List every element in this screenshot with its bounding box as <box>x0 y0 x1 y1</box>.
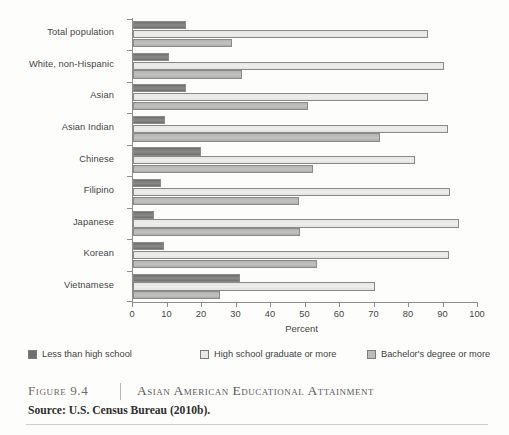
bar <box>133 53 169 61</box>
y-axis-category-label: Asian Indian <box>62 122 114 132</box>
x-axis-tick-label: 0 <box>129 309 134 319</box>
bar-group <box>133 179 477 207</box>
legend-swatch-icon <box>367 350 376 359</box>
y-axis-category-label: Filipino <box>84 185 114 195</box>
x-axis-tick-label: 100 <box>469 309 485 319</box>
y-axis-category-label: Japanese <box>73 217 114 227</box>
legend-label: Bachelor's degree or more <box>381 349 490 359</box>
x-axis-tick-label: 60 <box>334 309 344 319</box>
y-axis-category-label: Chinese <box>79 154 114 164</box>
bar <box>133 133 380 141</box>
figure-caption: Figure 9.4 Asian American Educational At… <box>28 380 488 402</box>
bar-group <box>133 147 477 175</box>
x-axis-tick <box>374 302 375 307</box>
bar <box>133 251 449 259</box>
y-axis-category-labels: Total populationWhite, non-HispanicAsian… <box>0 18 120 302</box>
y-axis-tick <box>127 176 132 177</box>
x-axis-tick-label: 90 <box>437 309 447 319</box>
x-axis-tick-label: 50 <box>299 309 309 319</box>
y-axis-tick <box>127 145 132 146</box>
y-axis-category-label: Korean <box>83 248 114 258</box>
bar <box>133 147 201 155</box>
bar <box>133 219 459 227</box>
bar-group <box>133 274 477 302</box>
y-axis-category-label: Vietnamese <box>64 280 114 290</box>
legend-swatch-icon <box>200 350 209 359</box>
y-axis-tick <box>127 208 132 209</box>
x-axis-tick <box>270 302 271 307</box>
chart-legend: Less than high schoolHigh school graduat… <box>0 349 509 369</box>
bar <box>133 125 448 133</box>
bar <box>133 84 186 92</box>
legend-item[interactable]: Bachelor's degree or more <box>367 349 490 359</box>
legend-swatch-icon <box>28 350 37 359</box>
x-axis-tick-label: 10 <box>161 309 171 319</box>
bar <box>133 242 164 250</box>
bar-group <box>133 211 477 239</box>
bar <box>133 102 308 110</box>
bar <box>133 39 232 47</box>
bar <box>133 30 428 38</box>
x-axis-tick <box>236 302 237 307</box>
figure-title: Asian American Educational Attainment <box>137 383 374 399</box>
figure-number: Figure 9.4 <box>28 383 120 399</box>
y-axis-tick <box>127 19 132 20</box>
y-axis-tick <box>127 50 132 51</box>
y-axis-category-label: White, non-Hispanic <box>29 59 114 69</box>
y-axis-tick <box>127 82 132 83</box>
x-axis-tick-label: 80 <box>403 309 413 319</box>
figure-container: Total populationWhite, non-HispanicAsian… <box>0 0 509 435</box>
x-axis-tick <box>305 302 306 307</box>
bar <box>133 282 375 290</box>
bars-region <box>132 18 477 302</box>
y-axis-tick <box>127 271 132 272</box>
chart-plot-area: Total populationWhite, non-HispanicAsian… <box>0 0 509 345</box>
bar-group <box>133 242 477 270</box>
bar <box>133 165 313 173</box>
bar <box>133 93 428 101</box>
bar-group <box>133 21 477 49</box>
y-axis-tick <box>127 239 132 240</box>
bar-group <box>133 84 477 112</box>
legend-item[interactable]: High school graduate or more <box>200 349 336 359</box>
x-axis-tick <box>132 302 133 307</box>
bar <box>133 197 299 205</box>
caption-divider <box>120 383 121 400</box>
x-axis-tick <box>339 302 340 307</box>
source-text: U.S. Census Bureau (2010b). <box>69 404 211 417</box>
bar <box>133 70 242 78</box>
bar-group <box>133 53 477 81</box>
x-axis-tick <box>408 302 409 307</box>
x-axis-tick-label: 30 <box>230 309 240 319</box>
y-axis-tick <box>127 113 132 114</box>
bar-group <box>133 116 477 144</box>
x-axis-title-text: Percent <box>285 323 318 334</box>
bar <box>133 260 317 268</box>
x-axis-tick-label: 20 <box>196 309 206 319</box>
x-axis-tick <box>477 302 478 307</box>
x-axis-tick <box>443 302 444 307</box>
legend-label: High school graduate or more <box>214 349 336 359</box>
bar <box>133 228 300 236</box>
bar <box>133 62 444 70</box>
x-axis-tick <box>167 302 168 307</box>
bar <box>133 156 415 164</box>
legend-label: Less than high school <box>42 349 132 359</box>
bar <box>133 274 240 282</box>
bar <box>133 21 186 29</box>
bar <box>133 188 450 196</box>
figure-source: Source: U.S. Census Bureau (2010b). <box>28 404 210 417</box>
source-label: Source: <box>28 404 66 417</box>
bar <box>133 116 165 124</box>
x-axis-tick-label: 70 <box>368 309 378 319</box>
bottom-divider <box>26 424 488 425</box>
y-axis-category-label: Asian <box>90 90 114 100</box>
bar <box>133 179 161 187</box>
x-axis-title: Percent <box>0 323 509 334</box>
legend-item[interactable]: Less than high school <box>28 349 132 359</box>
bar <box>133 211 154 219</box>
x-axis-tick-label: 40 <box>265 309 275 319</box>
y-axis-category-label: Total population <box>47 27 114 37</box>
bar <box>133 291 220 299</box>
x-axis-tick <box>201 302 202 307</box>
